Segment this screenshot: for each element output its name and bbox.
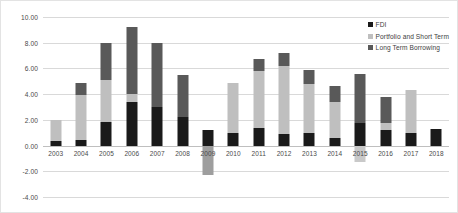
y-axis-tick-label: 10.00 xyxy=(21,14,38,21)
x-axis-tick-label: 2012 xyxy=(277,150,292,157)
y-axis-tick-label: 8.00 xyxy=(25,39,38,46)
gridline--4.00 xyxy=(43,197,449,198)
y-axis-tick-label: 4.00 xyxy=(25,91,38,98)
legend-item-label: Long Term Borrowing xyxy=(376,44,440,51)
x-axis-tick-label: 2011 xyxy=(251,150,265,157)
bar-segment-fdi xyxy=(228,133,239,146)
bar-segment-fdi xyxy=(279,134,290,146)
bar-group[interactable] xyxy=(119,17,144,197)
bar-group[interactable] xyxy=(297,17,322,197)
bar-segment-fdi xyxy=(50,141,61,146)
bar-group[interactable] xyxy=(170,17,195,197)
bar-segment-portfolio xyxy=(228,83,239,133)
bar-segment-fdi xyxy=(202,130,213,145)
bar-segment-long-term xyxy=(279,53,290,66)
bar-segment-portfolio xyxy=(380,123,391,130)
bar-segment-fdi xyxy=(304,133,315,146)
x-axis-tick-label: 2009 xyxy=(201,150,216,157)
bar-segment-fdi xyxy=(329,138,340,146)
bar-segment-fdi xyxy=(152,107,163,146)
x-axis-tick-label: 2017 xyxy=(404,150,419,157)
bar-group[interactable] xyxy=(94,17,119,197)
bar-segment-long-term xyxy=(101,43,112,80)
bar-segment-long-term xyxy=(380,97,391,123)
bar-segment-portfolio xyxy=(304,84,315,133)
bar-segment-fdi xyxy=(126,102,137,146)
y-axis-tick-label: 6.00 xyxy=(25,65,38,72)
legend-swatch-icon xyxy=(368,34,373,39)
legend-item-label: FDI xyxy=(376,21,387,28)
bar-group[interactable] xyxy=(221,17,246,197)
x-axis-tick-label: 2014 xyxy=(327,150,342,157)
bar-segment-portfolio xyxy=(50,120,61,141)
bar-segment-fdi xyxy=(380,130,391,145)
stacked-bar-chart: 10.008.006.004.002.000.00-2.00-4.00 2003… xyxy=(0,0,458,213)
legend-swatch-icon xyxy=(368,45,373,50)
x-axis-tick-label: 2015 xyxy=(353,150,368,157)
x-axis-tick-label: 2013 xyxy=(302,150,317,157)
bar-segment-portfolio xyxy=(405,90,416,133)
bar-segment-fdi xyxy=(177,117,188,145)
legend-item[interactable]: FDI xyxy=(368,21,449,28)
legend-item[interactable]: Long Term Borrowing xyxy=(368,44,449,51)
bar-segment-portfolio xyxy=(329,102,340,138)
bar-segment-portfolio xyxy=(101,80,112,122)
bar-group[interactable] xyxy=(271,17,296,197)
bar-segment-fdi xyxy=(253,128,264,146)
chart-legend: FDIPortfolio and Short TermLong Term Bor… xyxy=(368,21,449,51)
bar-segment-long-term xyxy=(126,27,137,94)
y-axis-tick-label: 0.00 xyxy=(25,142,38,149)
y-axis-tick-label: -4.00 xyxy=(22,194,38,201)
bar-segment-portfolio xyxy=(279,66,290,134)
x-axis-tick-label: 2004 xyxy=(74,150,89,157)
bar-segment-portfolio xyxy=(76,95,87,139)
bar-segment-long-term xyxy=(177,75,188,117)
legend-item-label: Portfolio and Short Term xyxy=(376,33,449,40)
x-axis-tick-label: 2010 xyxy=(226,150,241,157)
legend-item[interactable]: Portfolio and Short Term xyxy=(368,33,449,40)
legend-swatch-icon xyxy=(368,22,373,27)
x-axis-tick-label: 2006 xyxy=(124,150,139,157)
bar-group[interactable] xyxy=(68,17,93,197)
x-axis-tick-label: 2016 xyxy=(378,150,393,157)
bar-segment-long-term xyxy=(355,74,366,124)
bar-segment-long-term xyxy=(253,59,264,71)
bar-group[interactable] xyxy=(322,17,347,197)
bar-segment-long-term xyxy=(76,83,87,96)
bar-segment-fdi xyxy=(101,122,112,145)
x-axis-tick-label: 2005 xyxy=(99,150,114,157)
x-axis-tick-label: 2003 xyxy=(48,150,63,157)
bar-segment-long-term xyxy=(329,86,340,101)
bar-segment-long-term xyxy=(304,70,315,84)
bar-segment-fdi xyxy=(431,129,442,146)
bar-segment-fdi xyxy=(355,123,366,146)
x-axis-tick-label: 2008 xyxy=(175,150,190,157)
bar-segment-fdi xyxy=(76,140,87,146)
bar-group[interactable] xyxy=(195,17,220,197)
bar-segment-portfolio xyxy=(126,94,137,102)
y-axis-tick-label: -2.00 xyxy=(22,168,38,175)
bar-segment-fdi xyxy=(405,133,416,145)
bar-group[interactable] xyxy=(43,17,68,197)
x-axis-tick-label: 2018 xyxy=(429,150,444,157)
bar-segment-portfolio xyxy=(253,71,264,128)
y-axis-tick-label: 2.00 xyxy=(25,116,38,123)
bar-segment-long-term xyxy=(152,43,163,107)
x-axis-tick-label: 2007 xyxy=(150,150,165,157)
bar-group[interactable] xyxy=(145,17,170,197)
bar-group[interactable] xyxy=(246,17,271,197)
